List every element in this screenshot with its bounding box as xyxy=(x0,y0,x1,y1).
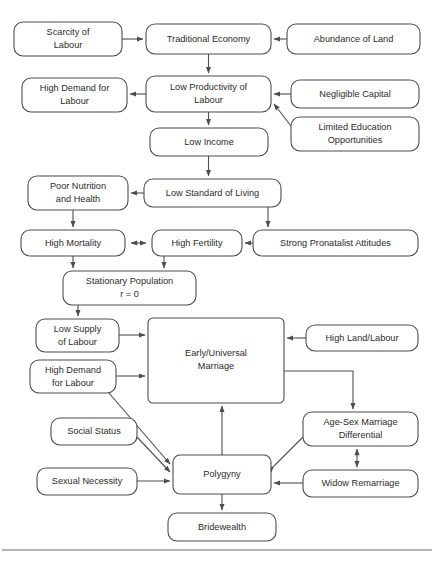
node-label-line2: Labour xyxy=(60,96,89,106)
node-label-line1: High Mortality xyxy=(45,238,102,248)
node-low-productivity-of-labour[interactable]: Low Productivity of Labour xyxy=(146,76,271,112)
node-low-standard-of-living[interactable]: Low Standard of Living xyxy=(144,179,281,207)
node-low-income[interactable]: Low Income xyxy=(150,128,268,156)
node-label-line1: Abundance of Land xyxy=(314,34,394,44)
node-label-line1: Polygyny xyxy=(203,469,241,479)
node-label-line1: Low Income xyxy=(184,137,234,147)
node-label-line2: of Labour xyxy=(58,337,97,347)
flowchart-diagram: Scarcity of Labour Traditional Economy A… xyxy=(0,0,434,562)
node-label-line1: Sexual Necessity xyxy=(52,476,123,486)
flowchart-canvas: Scarcity of Labour Traditional Economy A… xyxy=(0,0,434,562)
node-traditional-economy[interactable]: Traditional Economy xyxy=(146,24,271,54)
node-poor-nutrition-and-health[interactable]: Poor Nutrition and Health xyxy=(28,176,128,210)
node-age-sex-marriage-differential[interactable]: Age-Sex Marriage Differential xyxy=(303,412,418,446)
node-label-line1: Low Supply xyxy=(54,324,102,334)
node-box[interactable] xyxy=(146,76,271,112)
node-label-line1: High Demand for xyxy=(40,83,109,93)
edge-polygyny-agesex xyxy=(274,437,303,466)
node-label-line2: Marriage xyxy=(198,361,234,371)
node-label-line2: and Health xyxy=(56,194,100,204)
node-label-line1: Limited Education xyxy=(318,122,391,132)
node-label-line1: Low Productivity of xyxy=(170,82,248,92)
node-scarcity-of-labour[interactable]: Scarcity of Labour xyxy=(14,22,122,56)
node-strong-pronatalist-attitudes[interactable]: Strong Pronatalist Attitudes xyxy=(253,230,418,256)
node-label-line2: Differential xyxy=(339,430,383,440)
node-label-line1: Age-Sex Marriage xyxy=(323,417,397,427)
node-label-line2: for Labour xyxy=(52,378,94,388)
node-label-line1: Strong Pronatalist Attitudes xyxy=(280,238,391,248)
node-label-line1: Early/Universal xyxy=(185,348,247,358)
node-label-line1: Low Standard of Living xyxy=(166,188,259,198)
node-label-line1: Social Status xyxy=(67,426,121,436)
node-low-supply-of-labour[interactable]: Low Supply of Labour xyxy=(36,319,119,352)
node-label-line1: Widow Remarriage xyxy=(321,478,399,488)
edge-socialstatus-to-polygyny xyxy=(137,437,170,472)
node-label-line2: Labour xyxy=(54,40,83,50)
node-negligible-capital[interactable]: Negligible Capital xyxy=(291,80,419,108)
node-high-land-labour[interactable]: High Land/Labour xyxy=(306,325,418,351)
node-label-line2: Labour xyxy=(194,95,223,105)
node-high-mortality[interactable]: High Mortality xyxy=(21,230,125,256)
edge-education-to-lowprod xyxy=(274,104,291,126)
node-polygyny[interactable]: Polygyny xyxy=(173,455,271,494)
node-label-line1: Traditional Economy xyxy=(167,34,251,44)
node-layer: Scarcity of Labour Traditional Economy A… xyxy=(14,22,420,541)
node-label-line1: High Fertility xyxy=(171,238,222,248)
node-label-line1: Scarcity of xyxy=(47,27,90,37)
node-high-demand-for-labour-top[interactable]: High Demand for Labour xyxy=(22,78,127,112)
node-stationary-population[interactable]: Stationary Population r = 0 xyxy=(63,271,196,305)
node-high-fertility[interactable]: High Fertility xyxy=(152,230,242,256)
node-label-line1: Stationary Population xyxy=(86,276,173,286)
node-label-line2: Opportunities xyxy=(328,135,383,145)
node-widow-remarriage[interactable]: Widow Remarriage xyxy=(303,470,418,497)
node-label-line1: High Land/Labour xyxy=(325,333,398,343)
node-label-line1: Bridewealth xyxy=(198,522,246,532)
node-label-line2: r = 0 xyxy=(120,289,139,299)
edge-marriage-to-agesex xyxy=(284,371,353,409)
node-abundance-of-land[interactable]: Abundance of Land xyxy=(287,24,420,54)
node-sexual-necessity[interactable]: Sexual Necessity xyxy=(37,468,137,495)
node-early-universal-marriage[interactable]: Early/Universal Marriage xyxy=(148,318,284,403)
node-label-line1: Poor Nutrition xyxy=(50,181,106,191)
node-social-status[interactable]: Social Status xyxy=(51,418,137,445)
node-label-line1: Negligible Capital xyxy=(319,89,391,99)
node-limited-education-opportunities[interactable]: Limited Education Opportunities xyxy=(291,117,419,151)
node-label-line1: High Demand xyxy=(45,365,101,375)
node-bridewealth[interactable]: Bridewealth xyxy=(168,513,276,541)
node-high-demand-for-labour-bottom[interactable]: High Demand for Labour xyxy=(30,360,116,393)
